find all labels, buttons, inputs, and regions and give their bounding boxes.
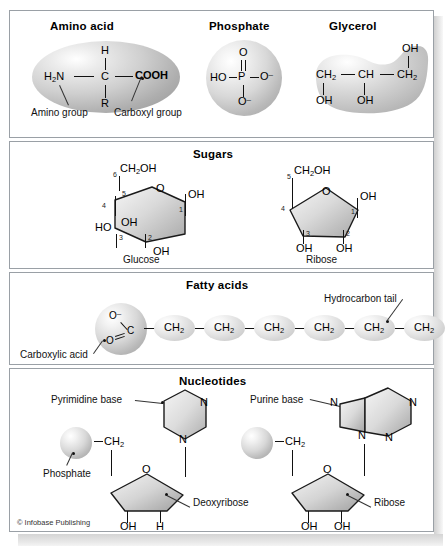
bond-c4-c5 bbox=[292, 178, 293, 208]
ch2-label-5: CH2 bbox=[364, 321, 384, 335]
bond-r-c1-oh bbox=[357, 198, 358, 218]
pyrimidine-base-callout: Pyrimidine base bbox=[51, 394, 122, 405]
ch2-label-3: CH2 bbox=[264, 321, 284, 335]
ribose-name: Ribose bbox=[306, 254, 337, 265]
bond-c2-c3 bbox=[380, 74, 394, 75]
glycerol-oh2: OH bbox=[357, 94, 374, 106]
purine-n-six-top: N bbox=[409, 396, 417, 408]
ribose-number-3: 3 bbox=[306, 230, 310, 237]
glucose-number-2: 2 bbox=[148, 234, 152, 241]
panel-monomers: Amino acid H H2N C COOH R Amino group Ca… bbox=[9, 10, 434, 138]
carboxyl-carbon: C bbox=[127, 325, 134, 336]
glycerol-c1: CH2 bbox=[316, 68, 336, 82]
glucose-c6-group: CH2OH bbox=[120, 162, 157, 176]
ch2-label-6: CH2 bbox=[414, 321, 434, 335]
ribose-number-2: 2 bbox=[346, 230, 350, 237]
ribose-ring-oxygen: O bbox=[322, 185, 331, 197]
ch2-linker-left: CH2 bbox=[104, 435, 124, 449]
deoxyribose-ring-oxygen: O bbox=[142, 463, 151, 475]
ribose-c2-oh: OH bbox=[336, 242, 353, 254]
amino-acid-amino-group: H2N bbox=[44, 70, 64, 84]
carboxyl-o-bottom: O bbox=[106, 335, 114, 346]
ribose-ring-nucleotide bbox=[286, 471, 372, 513]
bond-c1-c2 bbox=[341, 74, 355, 75]
deoxyribose-h: H bbox=[156, 520, 164, 532]
phosphate-sphere-left bbox=[60, 427, 92, 459]
publisher-credit: © Infobase Publishing bbox=[17, 518, 90, 527]
phosphate-title: Phosphate bbox=[209, 20, 270, 32]
phosphate-ho: HO bbox=[210, 71, 227, 83]
ribose-c1-oh: OH bbox=[360, 190, 377, 202]
page-shadow-bottom bbox=[18, 534, 443, 546]
ch2-label-4: CH2 bbox=[314, 321, 334, 335]
panel-fatty-acids: Fatty acids O– C O Carboxylic acid CH2 C… bbox=[9, 272, 434, 365]
glucose-c3-oh: OH bbox=[121, 216, 138, 228]
purine-n-five-bottom: N bbox=[358, 429, 366, 441]
phosphate-p: P bbox=[238, 70, 245, 82]
bond-c3-oh3 bbox=[408, 56, 409, 68]
ribose-oh-right: OH bbox=[334, 520, 351, 532]
bond-c3-oh bbox=[116, 234, 117, 248]
ch2-label-1: CH2 bbox=[164, 321, 184, 335]
glycerol-oh3: OH bbox=[402, 42, 419, 54]
carboxylic-acid-callout: Carboxylic acid bbox=[20, 349, 88, 360]
bond-c-h bbox=[105, 58, 106, 70]
pyrimidine-n-bottom: N bbox=[179, 433, 187, 445]
ribose-callout-right: Ribose bbox=[374, 497, 405, 508]
phosphate-o-top: O bbox=[239, 46, 248, 58]
amino-acid-r-group: R bbox=[101, 97, 109, 109]
glucose-ring-oxygen: O bbox=[156, 182, 165, 194]
glucose-number-4: 4 bbox=[102, 202, 106, 209]
hydrocarbon-tail-callout: Hydrocarbon tail bbox=[324, 293, 397, 304]
bond-c5-c6 bbox=[119, 176, 120, 191]
ribose-oh-left: OH bbox=[301, 520, 318, 532]
pyrimidine-n-top: N bbox=[200, 396, 208, 408]
ribose-number-1: 1 bbox=[351, 208, 355, 215]
phosphate-sphere-right bbox=[241, 427, 273, 459]
ribose-ring-oxygen-nucleotide: O bbox=[323, 463, 332, 475]
ch2-label-2: CH2 bbox=[214, 321, 234, 335]
page-shadow-right bbox=[434, 16, 443, 538]
glycerol-title: Glycerol bbox=[329, 20, 377, 32]
ch2-linker-right: CH2 bbox=[285, 435, 305, 449]
carboxyl-group-callout: Carboxyl group bbox=[114, 107, 182, 118]
amino-acid-alpha-carbon: C bbox=[101, 70, 109, 82]
glucose-number-1: 1 bbox=[179, 206, 183, 213]
glycerol-c2: CH bbox=[358, 68, 374, 80]
glucose-number-6: 6 bbox=[113, 171, 117, 178]
ribose-number-5: 5 bbox=[287, 173, 291, 180]
glucose-c1-oh: OH bbox=[188, 188, 205, 200]
glycerol-oh1: OH bbox=[316, 94, 333, 106]
bond-n-c bbox=[74, 76, 94, 77]
phosphate-callout-left: Phosphate bbox=[43, 468, 91, 479]
deoxyribose-oh: OH bbox=[120, 520, 137, 532]
ribose-number-4: 4 bbox=[281, 205, 285, 212]
panel-nucleotides: Nucleotides Pyrimidine base N N Phosphat… bbox=[9, 368, 434, 532]
carboxyl-o-top: O– bbox=[109, 309, 121, 321]
purine-n-six-bottom: N bbox=[385, 431, 393, 443]
bond-phosphate-ch2-left bbox=[94, 441, 103, 442]
glucose-number-5: 5 bbox=[122, 190, 126, 197]
phosphate-o-bottom: O– bbox=[238, 95, 251, 107]
amino-acid-h: H bbox=[101, 44, 109, 56]
deoxyribose-ring bbox=[105, 471, 191, 513]
bond-c1-oh bbox=[185, 194, 186, 216]
deoxyribose-callout: Deoxyribose bbox=[193, 497, 249, 508]
carboxyl-anchor-dot bbox=[141, 77, 144, 80]
purine-n-five-top: N bbox=[330, 396, 338, 408]
bond-phosphate-ch2-right bbox=[275, 441, 284, 442]
panel-sugars: Sugars CH2OH 6 5 O OH 1 2 OH 3 OH bbox=[9, 141, 434, 269]
bond-c4-ho bbox=[115, 196, 116, 216]
carboxylic-anchor-dot bbox=[103, 339, 106, 342]
amino-acid-title: Amino acid bbox=[50, 20, 114, 32]
ribose-c5-group: CH2OH bbox=[294, 164, 331, 178]
glucose-c4-ho: HO bbox=[95, 221, 112, 233]
bond-c2-oh bbox=[145, 234, 146, 248]
bond-ho-p bbox=[229, 77, 237, 78]
sugars-title: Sugars bbox=[193, 148, 233, 160]
phosphate-o-right: O– bbox=[260, 70, 273, 82]
amino-group-callout: Amino group bbox=[31, 107, 88, 118]
glucose-name: Glucose bbox=[123, 254, 160, 265]
purine-base-callout: Purine base bbox=[250, 394, 303, 405]
